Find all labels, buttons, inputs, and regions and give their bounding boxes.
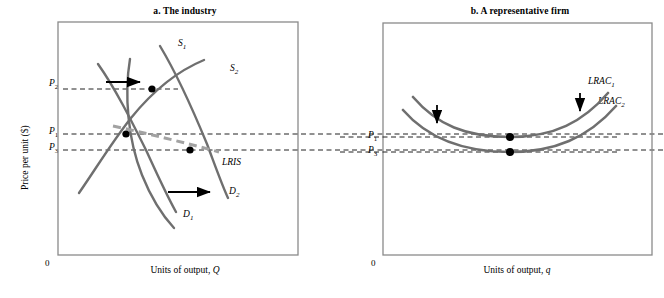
panel-b-min-dot-lrac2: [506, 148, 514, 156]
figure-canvas: [0, 0, 664, 298]
panel-b-frame: [383, 23, 652, 255]
panel-a-frame: [58, 22, 298, 255]
panel-a-equilibrium-dot-p3: [186, 146, 193, 153]
lris-curve: [113, 126, 219, 152]
panel-b-min-dot-lrac1: [506, 133, 514, 141]
lrac2-curve: [403, 106, 616, 152]
demand-curve-d2: [160, 46, 228, 198]
panel-a-equilibrium-dot-p1: [122, 130, 129, 137]
lrac1-curve: [413, 93, 608, 137]
panel-a-price-lines: [63, 89, 664, 150]
panel-a-equilibrium-dot-p2: [148, 85, 155, 92]
supply-curve-s1: [127, 59, 174, 228]
